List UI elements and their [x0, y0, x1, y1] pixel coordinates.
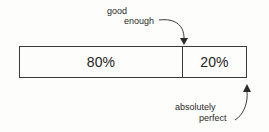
annotation-arrows — [0, 0, 269, 132]
top-arrow-icon — [159, 20, 188, 45]
diagram-canvas: good enough 80% 20% absolutely perfect — [0, 0, 269, 132]
bottom-arrow-icon — [235, 84, 251, 120]
